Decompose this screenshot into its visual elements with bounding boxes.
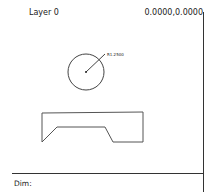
circle-center-point — [85, 71, 87, 73]
command-line-divider — [12, 173, 204, 174]
drawing-canvas[interactable]: R1.2500 — [0, 0, 211, 192]
command-prompt[interactable]: Dim: — [14, 179, 32, 188]
radius-dimension-text: R1.2500 — [107, 52, 124, 57]
polygon-entity — [42, 112, 143, 142]
